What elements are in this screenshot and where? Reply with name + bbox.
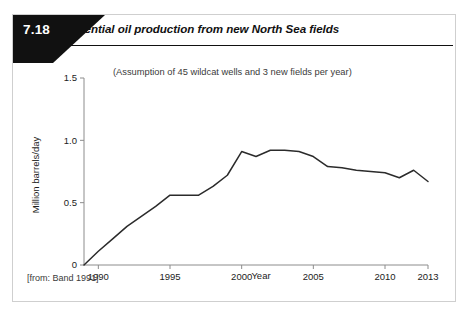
figure-header: 7.18 Potential oil production from new N… xyxy=(13,15,456,51)
data-series-group xyxy=(84,150,428,265)
line-chart: 00.51.01.5 199019952000200520102013 Mill… xyxy=(13,51,456,283)
x-tick-label: 2005 xyxy=(303,271,324,282)
y-axis-title: Million barrels/day xyxy=(30,136,41,213)
x-axis-title: Year xyxy=(251,270,270,281)
y-tick-label: 0.5 xyxy=(64,197,77,208)
series-line-potential-oil-production xyxy=(84,150,428,265)
figure-title: Potential oil production from new North … xyxy=(66,22,446,35)
x-tick-label: 2013 xyxy=(417,271,438,282)
y-axis: 00.51.01.5 xyxy=(64,72,84,270)
y-tick-label: 1.5 xyxy=(64,72,77,83)
y-tick-label: 0 xyxy=(72,259,77,270)
figure-number-label: 7.18 xyxy=(23,22,50,37)
y-tick-label: 1.0 xyxy=(64,135,77,146)
figure-source-note: [from: Band 1991] xyxy=(27,273,99,283)
x-tick-label: 1995 xyxy=(159,271,180,282)
chart-subtitle: (Assumption of 45 wildcat wells and 3 ne… xyxy=(113,67,352,77)
title-divider xyxy=(55,45,453,46)
x-tick-label: 2000 xyxy=(231,271,252,282)
figure-card: 7.18 Potential oil production from new N… xyxy=(12,14,456,302)
x-tick-label: 2010 xyxy=(374,271,395,282)
chart-plot-area: (Assumption of 45 wildcat wells and 3 ne… xyxy=(13,51,456,283)
